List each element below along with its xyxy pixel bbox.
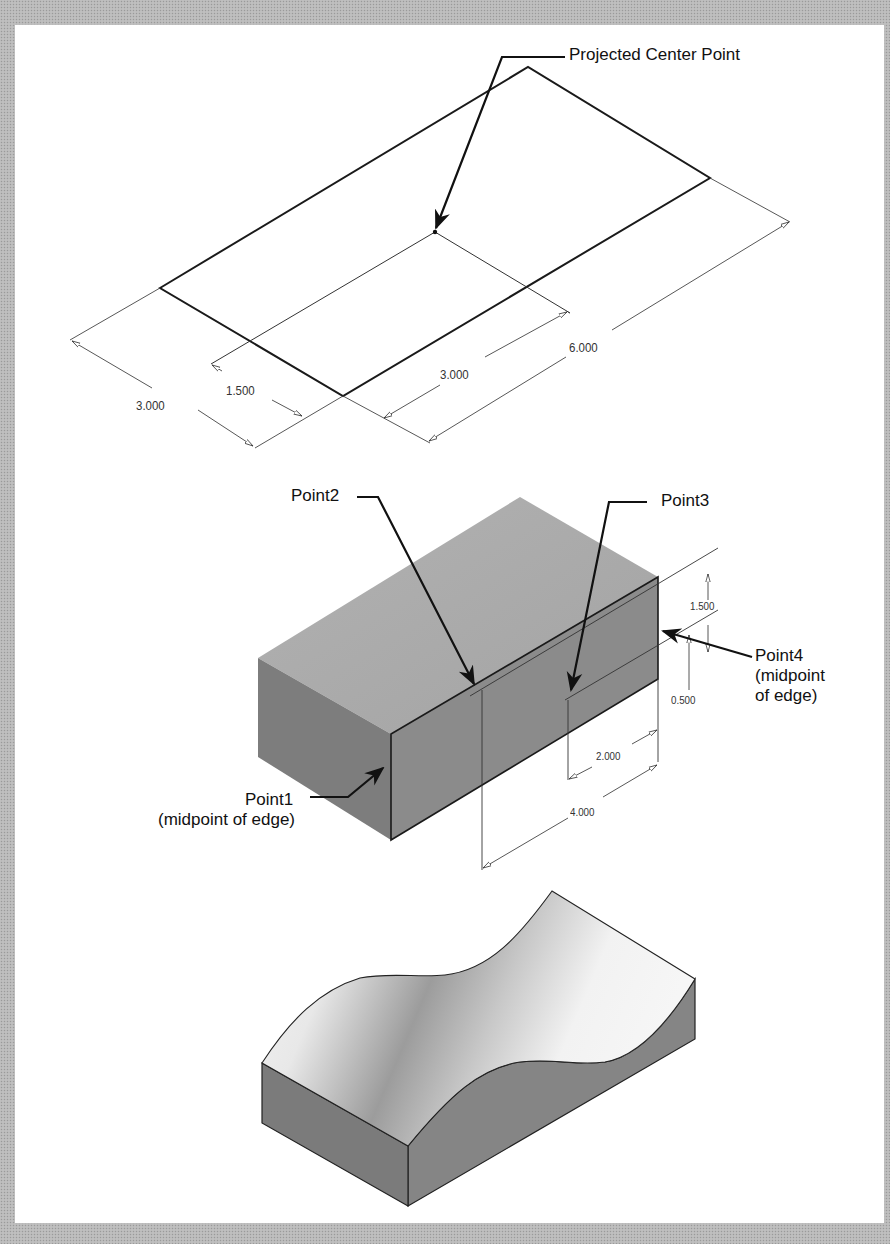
dim-length-inner: 2.000 [596,750,620,762]
sketch-inner-lines [211,232,570,364]
dim-center-offset: 1.500 [226,383,255,398]
point1-label: Point1 [245,790,293,810]
dim-left-width: 3.000 [136,398,165,413]
wavy-block-figure [262,891,695,1206]
point4-note-line1: (midpoint [755,666,825,686]
dim-height-lower: 0.500 [671,694,695,706]
dim-length-outer: 4.000 [570,806,594,818]
dim-height-upper: 1.500 [690,600,714,612]
center-point-dot [433,230,437,234]
drawing-canvas [0,0,890,1244]
point3-label: Point3 [661,491,709,511]
dimension-lines [72,222,789,446]
dim-overall-length: 6.000 [569,340,598,355]
extension-lines [70,178,790,448]
point4-label: Point4 [755,646,803,666]
projected-center-point-label: Projected Center Point [569,45,740,65]
point1-note: (midpoint of edge) [158,810,295,830]
sketch-figure [70,57,790,448]
point4-leader [663,631,752,657]
block-figure [258,497,752,870]
point2-label: Point2 [291,486,339,506]
point4-note-line2: of edge) [755,686,817,706]
dim-inner-length: 3.000 [440,367,469,382]
